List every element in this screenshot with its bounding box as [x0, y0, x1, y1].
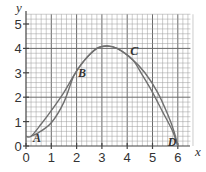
point-label-d: D: [167, 135, 177, 149]
x-tick-label: 6: [174, 150, 181, 165]
y-tick-label: 3: [14, 66, 21, 81]
x-tick-label: 4: [124, 150, 131, 165]
y-tick-label: 1: [14, 115, 21, 130]
grid: [26, 14, 193, 146]
y-tick-label: 0: [14, 139, 21, 154]
line-chart: 0123456012345 x y ABCD: [0, 0, 206, 172]
x-tick-label: 0: [22, 150, 29, 165]
x-tick-label: 1: [48, 150, 55, 165]
x-axis-label: x: [194, 144, 201, 159]
x-tick-label: 2: [73, 150, 80, 165]
y-tick-label: 2: [14, 90, 21, 105]
x-tick-label: 5: [149, 150, 156, 165]
point-label-a: A: [32, 131, 41, 145]
y-tick-label: 4: [14, 41, 21, 56]
x-tick-label: 3: [98, 150, 105, 165]
axes: [26, 11, 190, 146]
y-tick-label: 5: [14, 17, 21, 32]
point-label-b: B: [77, 66, 86, 80]
y-axis-label: y: [14, 0, 22, 15]
point-label-c: C: [130, 44, 139, 58]
curve-1: [31, 46, 178, 146]
